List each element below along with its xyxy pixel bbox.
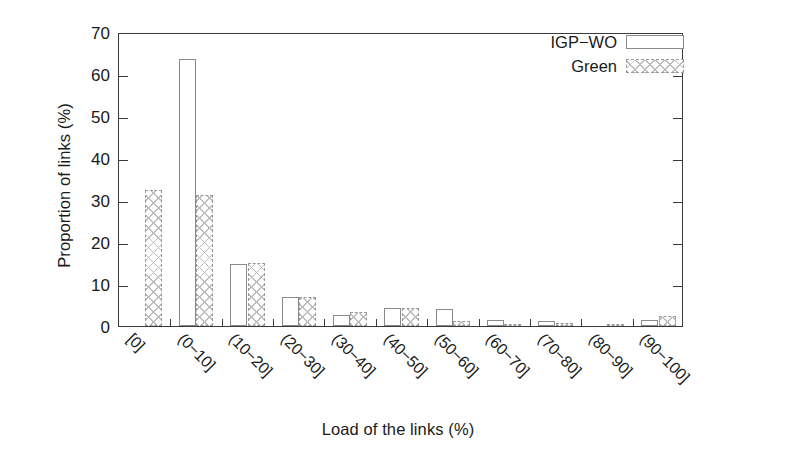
y-tick-label: 70 bbox=[91, 24, 110, 44]
x-tick-label: (30−40] bbox=[328, 330, 378, 380]
bar-green bbox=[659, 316, 676, 326]
bar-green bbox=[145, 190, 162, 327]
x-tick-label: (40−50] bbox=[380, 330, 430, 380]
bar-igp-wo bbox=[436, 309, 453, 326]
bar-green bbox=[607, 324, 624, 326]
x-tick-label: (10−20] bbox=[226, 330, 276, 380]
bar-igp-wo bbox=[538, 321, 555, 326]
bar-green bbox=[350, 312, 367, 326]
x-tick-label: (20−30] bbox=[277, 330, 327, 380]
x-tick-label: (60−70] bbox=[482, 330, 532, 380]
y-tick-label: 0 bbox=[101, 318, 110, 338]
legend-label-green: Green bbox=[571, 57, 617, 76]
y-tick-label: 20 bbox=[91, 234, 110, 254]
y-tick-label: 30 bbox=[91, 192, 110, 212]
bar-chart: Proportion of links (%) Load of the link… bbox=[0, 0, 793, 469]
x-axis-tick-labels: [0](0−10](10−20](20−30](30−40](40−50](50… bbox=[118, 330, 683, 415]
x-axis-title: Load of the links (%) bbox=[118, 420, 678, 439]
legend-item-igp-wo: IGP−WO bbox=[548, 30, 684, 54]
bar-green bbox=[402, 308, 419, 326]
bar-green bbox=[196, 195, 213, 326]
legend-swatch-igp-wo bbox=[626, 35, 684, 49]
legend-label-igp-wo: IGP−WO bbox=[551, 33, 617, 52]
y-axis-title: Proportion of links (%) bbox=[55, 36, 74, 336]
y-tick-label: 10 bbox=[91, 276, 110, 296]
x-tick-label: (80−90] bbox=[585, 330, 635, 380]
bar-igp-wo bbox=[230, 264, 247, 326]
legend-swatch-green bbox=[626, 59, 684, 73]
bar-green bbox=[248, 263, 265, 326]
bar-green bbox=[453, 321, 470, 326]
bar-igp-wo bbox=[641, 320, 658, 326]
bar-igp-wo bbox=[384, 308, 401, 326]
bar-green bbox=[556, 323, 573, 326]
bar-igp-wo bbox=[333, 315, 350, 326]
x-tick-label: (0−10] bbox=[174, 330, 218, 374]
bar-igp-wo bbox=[487, 320, 504, 326]
bar-green bbox=[299, 297, 316, 326]
x-tick-label: (50−60] bbox=[431, 330, 481, 380]
bar-igp-wo bbox=[282, 297, 299, 326]
x-tick-label: (90−100] bbox=[637, 330, 694, 387]
x-tick-label: (70−80] bbox=[534, 330, 584, 380]
y-tick-label: 60 bbox=[91, 66, 110, 86]
bar-green bbox=[504, 324, 521, 326]
x-tick-label: [0] bbox=[123, 330, 148, 355]
y-tick-label: 40 bbox=[91, 150, 110, 170]
legend-item-green: Green bbox=[548, 54, 684, 78]
bar-igp-wo bbox=[179, 59, 196, 326]
chart-legend: IGP−WO Green bbox=[548, 26, 684, 80]
y-tick-label: 50 bbox=[91, 108, 110, 128]
